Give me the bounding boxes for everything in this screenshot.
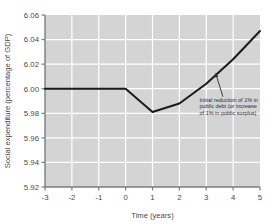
y-axis-tick-label: 6.02 [24, 60, 39, 69]
y-axis-title: Social expenditure (percentage of GDP) [3, 33, 12, 168]
x-axis-tick-label: 1 [150, 193, 154, 202]
y-axis-tick-label: 6.00 [24, 85, 40, 94]
y-axis-tick-label: 6.04 [24, 35, 40, 44]
annotation-text-line: Initial reduction of 1% in [200, 97, 258, 103]
x-axis-tick-label: -3 [42, 193, 49, 202]
x-axis-tick-label: 5 [258, 193, 263, 202]
y-axis-tick-label: 5.94 [24, 158, 40, 167]
x-axis-title: Time (years) [131, 211, 174, 220]
y-axis-tick-label: 5.92 [24, 183, 39, 192]
x-axis-tick-label: -2 [68, 193, 75, 202]
line-chart: 5.925.945.965.986.006.026.046.06-3-2-101… [0, 0, 268, 224]
annotation-text-line: of 1% in public surplus) [200, 110, 257, 116]
x-axis-tick-label: -1 [95, 193, 102, 202]
x-axis-tick-label: 4 [231, 193, 236, 202]
y-axis-tick-label: 5.98 [24, 109, 39, 118]
x-axis-tick-label: 3 [204, 193, 208, 202]
y-axis-tick-label: 5.96 [24, 134, 39, 143]
chart-figure: 5.925.945.965.986.006.026.046.06-3-2-101… [0, 0, 268, 224]
annotation-text-line: public debt (or increase [200, 103, 257, 109]
y-axis-tick-label: 6.06 [24, 11, 39, 20]
x-axis-tick-label: 2 [177, 193, 181, 202]
x-axis-tick-label: 0 [123, 193, 128, 202]
